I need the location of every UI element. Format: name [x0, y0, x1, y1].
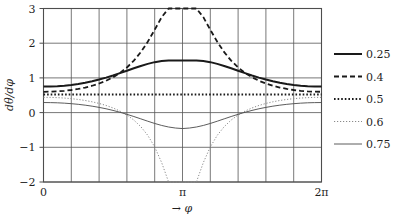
y-axis-title-group: dθ/dφ — [3, 79, 16, 111]
y-axis-title: dθ/dφ — [3, 79, 16, 111]
y-tick-label: 1 — [29, 72, 36, 85]
legend-label-0-5: 0.5 — [366, 93, 384, 106]
x-tick-label: π — [179, 186, 186, 199]
legend-label-0-75: 0.75 — [366, 138, 391, 151]
y-tick-label: 2 — [29, 37, 36, 50]
y-tick-label: −1 — [19, 141, 35, 154]
y-tick-label: −2 — [19, 176, 35, 189]
x-axis-title-group: → φ — [172, 202, 193, 215]
legend-label-0-6: 0.6 — [366, 116, 384, 129]
legend-label-0-4: 0.4 — [366, 71, 384, 84]
chart-figure: 0π2π 3210−1−2 0.250.40.50.60.75 dθ/dφ → … — [0, 0, 394, 222]
x-tick-label: 0 — [40, 186, 47, 199]
plot-background — [0, 0, 394, 222]
x-tick-label: 2π — [314, 186, 328, 199]
chart-canvas: 0π2π 3210−1−2 0.250.40.50.60.75 dθ/dφ → … — [0, 0, 394, 222]
y-tick-label: 3 — [29, 3, 36, 16]
legend-label-0-25: 0.25 — [366, 48, 391, 61]
x-axis-title: → φ — [172, 202, 193, 215]
y-tick-label: 0 — [29, 107, 36, 120]
